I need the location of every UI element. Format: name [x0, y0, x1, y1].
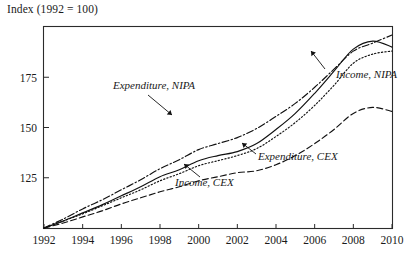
series-line-expenditure_nipa [44, 35, 392, 228]
chart-plot-area: Income, NIPAExpenditure, CEXExpenditure,… [0, 0, 417, 260]
x-tick-label: 2006 [303, 234, 326, 246]
y-tick-label: 125 [20, 172, 38, 184]
x-tick-label: 2004 [265, 234, 288, 246]
series-line-income_cex [44, 107, 392, 228]
axis-ticks [44, 77, 392, 228]
leader-arrow-income_nipa [311, 51, 316, 56]
series-curves [44, 35, 392, 228]
leader-arrow-income_cex [184, 164, 189, 169]
y-tick-label: 175 [20, 72, 38, 84]
y-tick-label: 150 [20, 122, 38, 134]
x-tick-label: 2010 [381, 234, 404, 246]
series-label-expenditure_nipa: Expenditure, NIPA [112, 79, 195, 91]
x-tick-label: 2002 [226, 234, 249, 246]
series-label-income_nipa: Income, NIPA [335, 68, 397, 80]
leader-arrow-expenditure_cex [242, 143, 247, 148]
plot-frame [44, 27, 393, 229]
leader-line-expenditure_nipa [148, 95, 172, 115]
x-tick-label: 1992 [33, 234, 56, 246]
chart-figure: Index (1992 = 100) Income, NIPAExpenditu… [0, 0, 417, 260]
x-tick-label: 1998 [149, 234, 172, 246]
series-labels: Income, NIPAExpenditure, CEXExpenditure,… [112, 68, 397, 188]
series-label-income_cex: Income, CEX [174, 176, 235, 188]
axis-tick-labels: 1992199419961998200020022004200620082010… [20, 72, 404, 246]
series-label-expenditure_cex: Expenditure, CEX [257, 150, 339, 162]
x-tick-label: 2008 [342, 234, 365, 246]
x-tick-label: 2000 [187, 234, 210, 246]
x-tick-label: 1994 [71, 234, 94, 246]
x-tick-label: 1996 [110, 234, 133, 246]
